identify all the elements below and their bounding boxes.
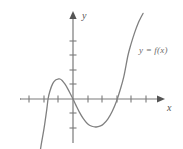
function-graph-figure: y x y = f(x)	[0, 0, 183, 149]
curve-equation-label: y = f(x)	[139, 46, 168, 55]
y-axis-label: y	[82, 11, 86, 21]
y-axis-arrowhead-icon	[69, 11, 76, 19]
coordinate-plane-svg	[0, 0, 183, 149]
x-axis-arrowhead-icon	[157, 95, 165, 102]
function-curve	[36, 13, 143, 149]
x-axis-label: x	[167, 103, 171, 113]
